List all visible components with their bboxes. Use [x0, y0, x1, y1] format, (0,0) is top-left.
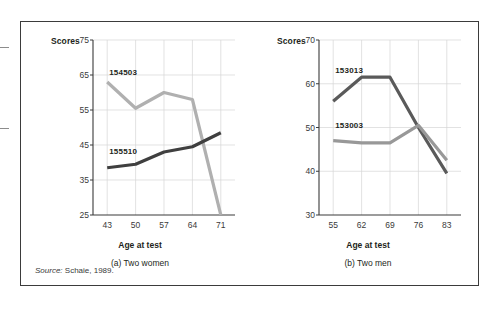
series-label-153003: 153003: [335, 121, 363, 130]
y-tick-label: 30: [306, 210, 315, 220]
x-tick-label: 69: [385, 220, 394, 230]
x-tick-label: 57: [159, 220, 168, 230]
x-axis-title-b: Age at test: [257, 240, 479, 250]
plot-svg-a: [93, 40, 235, 215]
x-tick-label: 83: [442, 220, 451, 230]
y-tick-label: 60: [306, 79, 315, 89]
x-axis-title-a: Age at test: [29, 240, 251, 250]
chart-panel-b: Scores 70605040305562697683153013153003 …: [257, 22, 479, 285]
source-note: Source: Schaie, 1989.: [35, 266, 114, 275]
y-tick-label: 40: [306, 166, 315, 176]
source-note-text: Schaie, 1989.: [65, 266, 114, 275]
figure-frame: Scores 756555453525435057647115450315551…: [20, 21, 479, 286]
plot-area-b: 70605040305562697683153013153003: [319, 40, 461, 215]
panel-caption-b: (b) Two men: [257, 258, 479, 268]
y-tick-label: 75: [80, 35, 89, 45]
series-label-154503: 154503: [109, 68, 137, 77]
y-tick-label: 70: [306, 35, 315, 45]
y-axis-title-b: Scores: [277, 36, 306, 46]
source-note-prefix: Source:: [35, 266, 63, 275]
chart-panels: Scores 756555453525435057647115450315551…: [21, 22, 478, 285]
x-tick-label: 43: [102, 220, 111, 230]
y-tick-label: 35: [80, 175, 89, 185]
page-edge-mark-top: [0, 47, 9, 48]
y-tick-label: 55: [80, 105, 89, 115]
x-tick-label: 55: [328, 220, 337, 230]
plot-area-a: 7565554535254350576471154503155510: [93, 40, 235, 215]
y-tick-label: 50: [306, 123, 315, 133]
x-tick-label: 71: [216, 220, 225, 230]
x-tick-label: 76: [414, 220, 423, 230]
y-axis-title-a: Scores: [51, 36, 80, 46]
chart-panel-a: Scores 756555453525435057647115450315551…: [29, 22, 251, 285]
x-tick-label: 62: [357, 220, 366, 230]
series-label-155510: 155510: [109, 147, 137, 156]
x-tick-label: 50: [131, 220, 140, 230]
y-tick-label: 65: [80, 70, 89, 80]
y-tick-label: 45: [80, 140, 89, 150]
y-tick-label: 25: [80, 210, 89, 220]
page-edge-mark-bottom: [0, 128, 9, 129]
x-tick-label: 64: [188, 220, 197, 230]
series-label-153013: 153013: [335, 66, 363, 75]
